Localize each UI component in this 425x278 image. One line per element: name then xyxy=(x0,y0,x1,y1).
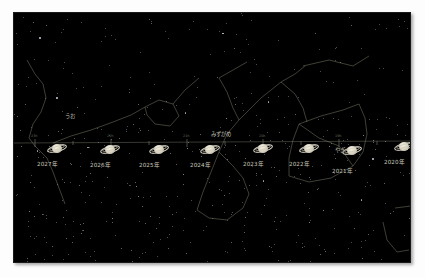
ra-tick-label: 20h xyxy=(259,134,265,138)
saturn-marker-2027[interactable] xyxy=(48,139,66,157)
sculptor-edge-line xyxy=(395,206,411,208)
year-label-2025: 2025年 xyxy=(139,161,160,169)
aquarius-shoulder xyxy=(281,66,305,82)
piscis-austrinus-lines xyxy=(383,222,409,252)
ra-tick-label: 23h xyxy=(31,134,37,138)
pisces-cord-west xyxy=(27,60,46,138)
saturn-marker-2020[interactable] xyxy=(395,137,411,155)
saturn-marker-2023[interactable] xyxy=(254,139,272,157)
star-chart-page: 23h 22h 21h 20h 19h xyxy=(0,0,425,278)
constellation-label-aquarius: みずがめ xyxy=(211,130,231,138)
sky-chart-canvas[interactable]: 23h 22h 21h 20h 19h xyxy=(13,12,411,263)
constellation-label-pisces: うお xyxy=(65,112,75,120)
year-label-2023: 2023年 xyxy=(243,160,264,168)
aquarius-upper xyxy=(219,78,239,120)
aquarius-north-link xyxy=(219,62,247,78)
aquarius-water-jar xyxy=(239,82,281,120)
saturn-marker-2021[interactable] xyxy=(343,141,361,159)
year-label-2027: 2027年 xyxy=(37,160,58,168)
saturn-marker-2024[interactable] xyxy=(201,140,219,158)
year-label-2026: 2026年 xyxy=(90,161,111,169)
ra-tick-label: 22h xyxy=(107,134,113,138)
ra-tick-label: 21h xyxy=(183,134,189,138)
year-label-2024: 2024年 xyxy=(190,161,211,169)
pegasus-corner-lines xyxy=(303,56,369,66)
capricornus-north-edge xyxy=(299,104,359,124)
ra-tick-label: 19h xyxy=(335,134,341,138)
aquarius-arm-east xyxy=(281,82,307,122)
year-label-2022: 2022年 xyxy=(289,160,310,168)
year-label-2020: 2020年 xyxy=(384,158,405,166)
capricornus-west-edge xyxy=(289,124,299,176)
saturn-marker-2026[interactable] xyxy=(101,140,119,158)
saturn-marker-2022[interactable] xyxy=(300,139,318,157)
pisces-branch-north xyxy=(173,78,199,104)
aquarius-foot xyxy=(197,208,243,220)
saturn-marker-2025[interactable] xyxy=(150,140,168,158)
year-label-2021: 2021年 xyxy=(332,167,353,175)
pisces-circlet xyxy=(145,100,179,126)
constellation-label-capricornus: やぎ xyxy=(335,146,345,154)
